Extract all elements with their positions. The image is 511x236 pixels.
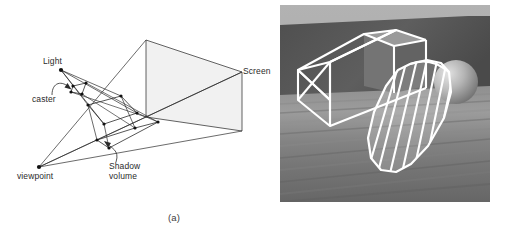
vertex-viewpoint [37, 165, 41, 169]
rendered-scene-svg [268, 0, 511, 236]
label-shadow-volume-line2: volume [109, 172, 140, 182]
panel-b-photo: (b) [268, 0, 511, 236]
vertex-caster-2 [84, 81, 87, 84]
construction-line-2 [71, 92, 146, 117]
vertex-caster-3 [80, 92, 83, 95]
vertex-sv-far-2 [133, 126, 136, 129]
vertex-sv-near-3 [135, 111, 138, 114]
vertex-caster-1 [71, 84, 74, 87]
label-screen: Screen [243, 67, 271, 77]
caption-a: (a) [168, 212, 180, 223]
vertex-sv-far-3 [156, 120, 159, 123]
vertex-sv-near-2 [119, 94, 122, 97]
screen-quad [146, 40, 242, 131]
caster-leader-arrowhead [65, 83, 72, 90]
vertex-sv-near-1 [86, 103, 89, 106]
label-light: Light [43, 57, 62, 67]
panel-a-diagram: Light caster viewpoint Shadow volume (a) [0, 0, 268, 236]
shadow-volume-diagram-svg [0, 0, 268, 236]
label-caster: caster [32, 95, 56, 105]
vertex-sv-far-1 [95, 138, 98, 141]
vertex-caster-4 [69, 90, 72, 93]
label-viewpoint: viewpoint [17, 172, 53, 182]
label-shadow-volume: Shadow volume [109, 162, 140, 182]
vertex-sv-near-4 [102, 122, 105, 125]
photo-frame [280, 5, 490, 202]
frustum-edge-bottom-right [39, 131, 242, 167]
vertex-light [59, 68, 63, 72]
figure-container: Light caster viewpoint Shadow volume (a)… [0, 0, 511, 236]
